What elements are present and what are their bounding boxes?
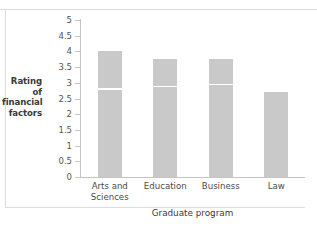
- y-axis-tick: [75, 20, 80, 21]
- y-axis-tick-label: 5: [44, 16, 72, 24]
- y-axis-tick: [75, 36, 80, 37]
- y-axis-tick-label: 1.5: [44, 126, 72, 134]
- bar: [209, 59, 233, 177]
- x-axis-tick-label-line: Sciences: [91, 192, 129, 202]
- x-axis-tick-label-line: Education: [144, 181, 187, 191]
- y-axis-tick: [75, 51, 80, 52]
- bar: [153, 59, 177, 177]
- x-axis-title: Graduate program: [80, 208, 305, 219]
- y-axis-title-line-1: Rating of: [11, 76, 42, 97]
- bar-chart-figure: 00.511.522.533.544.55 Rating of financia…: [0, 0, 317, 235]
- page-frame-top-rule: [0, 9, 317, 10]
- bar-median-line: [98, 88, 122, 90]
- x-axis-tick-label-line: Law: [268, 181, 285, 191]
- y-axis-tick: [75, 130, 80, 131]
- y-axis-tick-label: 0: [44, 173, 72, 181]
- bar-median-line: [209, 84, 233, 86]
- y-axis-tick-label-text: 4: [44, 47, 72, 55]
- y-axis-tick-label: 2.5: [44, 95, 72, 103]
- y-axis-tick-label-text: 2: [44, 110, 72, 118]
- y-axis-tick-label-text: 1: [44, 142, 72, 150]
- y-axis-tick: [75, 146, 80, 147]
- bar: [98, 51, 122, 177]
- y-axis-tick-label: 4: [44, 47, 72, 55]
- y-axis-tick: [75, 177, 80, 178]
- x-axis-tick-label: Law: [249, 181, 305, 192]
- x-axis-tick-label-line: Arts and: [92, 181, 128, 191]
- y-axis-tick-label-text: 2.5: [44, 95, 72, 103]
- x-axis-tick-label-line: Business: [202, 181, 240, 191]
- y-axis-tick-label-text: 5: [44, 16, 72, 24]
- y-axis-tick-label: 2: [44, 110, 72, 118]
- y-axis-tick-label-text: 3: [44, 79, 72, 87]
- y-axis-tick-label: 0.5: [44, 157, 72, 165]
- x-axis-tick-label: Business: [193, 181, 249, 192]
- y-axis-tick: [75, 83, 80, 84]
- y-axis-tick: [75, 161, 80, 162]
- x-axis-tick-label: Arts andSciences: [82, 181, 138, 202]
- bar: [264, 92, 288, 177]
- y-axis-tick-label: 3.5: [44, 63, 72, 71]
- x-axis-line: [80, 177, 305, 178]
- y-axis-tick-label-text: 4.5: [44, 32, 72, 40]
- y-axis-title-line-3: factors: [9, 108, 42, 118]
- y-axis-tick-label-text: 3.5: [44, 63, 72, 71]
- y-axis-tick-label: 4.5: [44, 32, 72, 40]
- y-axis-tick: [75, 67, 80, 68]
- y-axis-tick-label: 1: [44, 142, 72, 150]
- y-axis-tick-label: 3: [44, 79, 72, 87]
- y-axis-line: [80, 19, 81, 178]
- bar-median-line: [153, 86, 177, 88]
- y-axis-tick: [75, 114, 80, 115]
- x-axis-tick-label: Education: [138, 181, 194, 192]
- y-axis-title-line-2: financial: [2, 97, 43, 107]
- y-axis-tick-label-text: 1.5: [44, 126, 72, 134]
- y-axis-tick-label-text: 0: [44, 173, 72, 181]
- y-axis-tick-label-text: 0.5: [44, 157, 72, 165]
- y-axis-tick: [75, 99, 80, 100]
- y-axis-title: Rating of financial factors: [2, 76, 42, 118]
